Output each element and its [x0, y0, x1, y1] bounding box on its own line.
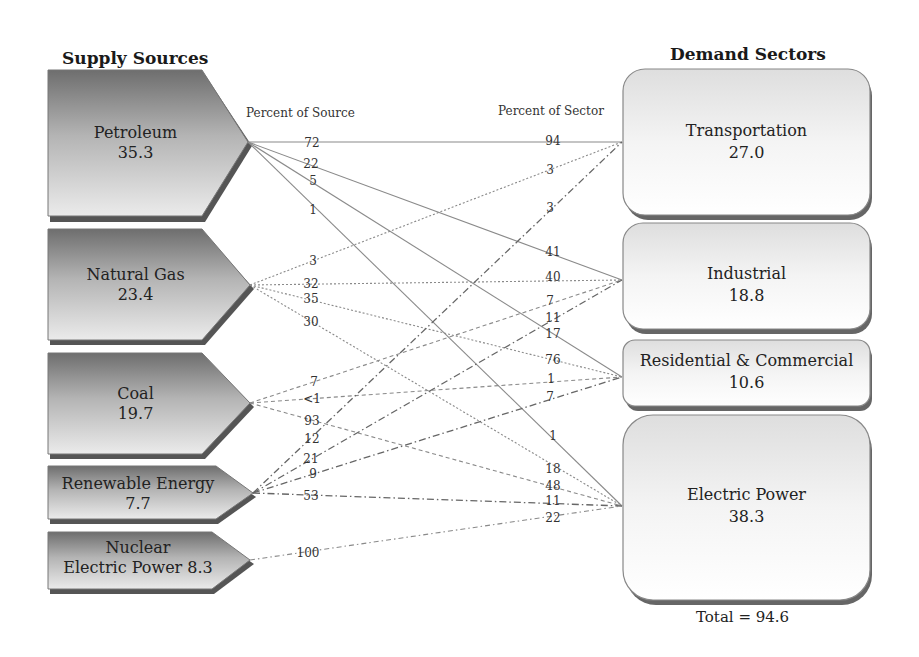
svg-text:11: 11 [545, 311, 560, 325]
sector-industrial-name: Industrial [623, 263, 870, 285]
source-petroleum-value: 35.3 [48, 143, 223, 163]
svg-text:3: 3 [546, 201, 554, 215]
source-coal-name: Coal [48, 384, 223, 404]
sector-res-com-value: 10.6 [623, 372, 870, 394]
svg-text:100: 100 [297, 546, 320, 560]
source-renewable-value: 7.7 [48, 494, 228, 514]
source-natural-gas-name: Natural Gas [48, 265, 223, 285]
svg-text:12: 12 [304, 432, 319, 446]
percent-of-sector-labels: 94 41 17 1 3 40 76 18 7 1 48 3 11 7 11 2… [545, 134, 561, 525]
svg-text:32: 32 [303, 277, 318, 291]
svg-text:7: 7 [546, 390, 554, 404]
svg-text:9: 9 [309, 467, 317, 481]
percent-of-source-labels: 72 22 5 1 3 32 35 30 7 <1 93 12 21 9 53 … [297, 136, 321, 560]
sector-transportation-value: 27.0 [623, 142, 870, 164]
sector-res-com-name: Residential & Commercial [623, 350, 870, 372]
source-renewable-energy: Renewable Energy 7.7 [48, 474, 228, 514]
source-coal: Coal 19.7 [48, 384, 223, 424]
svg-text:22: 22 [303, 157, 318, 171]
sector-electric-power: Electric Power 38.3 [623, 484, 870, 528]
svg-text:76: 76 [545, 353, 560, 367]
source-nuclear-name: Nuclear [48, 538, 228, 558]
total-label: Total = 94.6 [696, 608, 789, 626]
sector-transportation-name: Transportation [623, 120, 870, 142]
sector-industrial-value: 18.8 [623, 285, 870, 307]
source-natural-gas-value: 23.4 [48, 285, 223, 305]
source-nuclear: Nuclear Electric Power 8.3 [48, 538, 228, 578]
svg-text:41: 41 [545, 245, 560, 259]
source-natural-gas: Natural Gas 23.4 [48, 265, 223, 305]
svg-text:93: 93 [304, 414, 319, 428]
svg-text:30: 30 [303, 315, 318, 329]
svg-text:1: 1 [549, 429, 557, 443]
svg-text:1: 1 [547, 372, 555, 386]
sector-residential-commercial: Residential & Commercial 10.6 [623, 350, 870, 394]
svg-text:5: 5 [309, 174, 317, 188]
svg-text:18: 18 [545, 462, 560, 476]
svg-text:22: 22 [545, 511, 560, 525]
svg-text:21: 21 [303, 452, 318, 466]
svg-text:1: 1 [309, 203, 317, 217]
svg-text:35: 35 [303, 292, 318, 306]
sector-transportation: Transportation 27.0 [623, 120, 870, 164]
svg-text:17: 17 [545, 327, 560, 341]
svg-text:48: 48 [545, 479, 560, 493]
sector-electric-power-name: Electric Power [623, 484, 870, 506]
source-petroleum: Petroleum 35.3 [48, 123, 223, 163]
source-coal-value: 19.7 [48, 404, 223, 424]
source-nuclear-name-line2: Electric Power 8.3 [48, 558, 228, 578]
svg-text:40: 40 [545, 270, 560, 284]
svg-text:3: 3 [309, 254, 317, 268]
source-petroleum-name: Petroleum [48, 123, 223, 143]
svg-text:72: 72 [304, 136, 319, 150]
sector-industrial: Industrial 18.8 [623, 263, 870, 307]
svg-text:3: 3 [546, 163, 554, 177]
svg-text:7: 7 [546, 294, 554, 308]
svg-text:11: 11 [545, 494, 560, 508]
sector-electric-power-value: 38.3 [623, 506, 870, 528]
source-renewable-name: Renewable Energy [48, 474, 228, 494]
svg-text:7: 7 [310, 375, 318, 389]
svg-text:<1: <1 [303, 392, 321, 406]
svg-text:53: 53 [303, 489, 318, 503]
svg-text:94: 94 [545, 134, 561, 148]
